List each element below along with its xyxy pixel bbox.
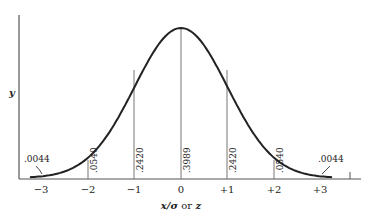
ordinate-label-m2: .0540 [89, 147, 99, 173]
tail-left-pointer [36, 166, 42, 174]
tick-p3: +3 [313, 184, 328, 195]
ordinate-label-p1: .2420 [228, 147, 238, 173]
tick-p1: +1 [220, 184, 235, 195]
x-axis-title-or: or [181, 200, 192, 211]
tail-right-pointer [322, 166, 330, 174]
normal-curve-diagram: y .0044 .0044 .0540 .2420 .3989 .2420 .0… [0, 0, 381, 214]
tail-right-label: .0044 [318, 154, 344, 164]
tick-0: 0 [178, 184, 184, 195]
y-axis-label: y [8, 87, 16, 98]
x-axis-title-z: z [195, 200, 202, 211]
tick-m3: −3 [34, 184, 49, 195]
x-axis-title: x/σ or z [160, 200, 202, 211]
tick-m1: −1 [127, 184, 142, 195]
ordinate-label-m1: .2420 [135, 147, 145, 173]
tick-m2: −2 [81, 184, 96, 195]
ordinate-label-p2: .0540 [275, 147, 285, 173]
ordinate-label-0: .3989 [182, 147, 192, 173]
x-axis-title-ratio: x/σ [160, 200, 179, 211]
ordinate-lines [88, 28, 274, 179]
tail-left-label: .0044 [24, 154, 50, 164]
tick-p2: +2 [267, 184, 282, 195]
